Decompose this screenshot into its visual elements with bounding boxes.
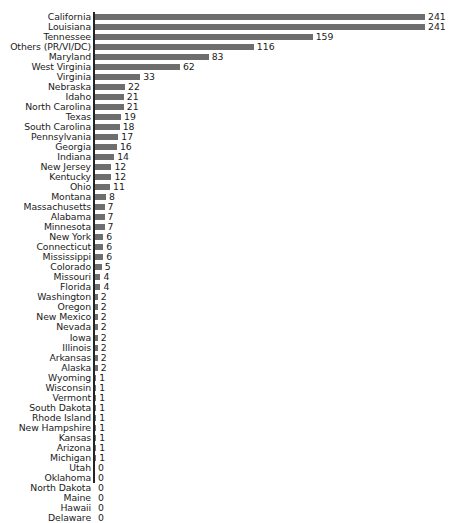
bar-and-value: 4	[95, 274, 109, 280]
bar	[95, 74, 140, 80]
bar	[95, 94, 124, 100]
bar	[95, 84, 125, 90]
bar	[95, 204, 105, 210]
bar-and-value: 6	[95, 254, 112, 260]
bar	[95, 405, 96, 411]
bar	[95, 174, 111, 180]
bar-and-value: 11	[95, 184, 125, 190]
bar-row: Delaware0	[0, 513, 453, 523]
bar	[95, 274, 100, 280]
bar-and-value: 2	[95, 335, 107, 341]
bar	[95, 254, 103, 260]
bar	[95, 345, 98, 351]
bar-value-label: 2	[101, 333, 107, 343]
bar-and-value: 21	[95, 104, 139, 110]
bar	[95, 314, 98, 320]
bar-and-value: 2	[95, 294, 107, 300]
bar	[95, 395, 96, 401]
bar	[95, 375, 96, 381]
bar-and-value: 83	[95, 54, 223, 60]
bar-value-label: 159	[316, 32, 334, 42]
bar	[95, 304, 98, 310]
bar	[95, 455, 96, 461]
bar-and-value: 8	[95, 194, 115, 200]
bar-and-value: 1	[95, 435, 105, 441]
bar-value-label: 62	[183, 62, 195, 72]
bar-and-value: 33	[95, 74, 155, 80]
bar-row: Nevada2	[0, 322, 453, 332]
bar-and-value: 4	[95, 284, 109, 290]
bar-and-value: 2	[95, 314, 107, 320]
bar-and-value: 1	[95, 415, 105, 421]
bar-and-value: 0	[95, 475, 104, 481]
bar	[95, 445, 96, 451]
bar-and-value: 14	[95, 154, 129, 160]
bar	[95, 14, 425, 20]
bar-and-value: 1	[95, 395, 105, 401]
bar	[95, 134, 118, 140]
bar	[95, 355, 98, 361]
bar	[95, 214, 105, 220]
bar	[95, 124, 120, 130]
bar	[95, 64, 180, 70]
bar	[95, 234, 103, 240]
bar	[95, 385, 96, 391]
bar-and-value: 1	[95, 405, 105, 411]
bar-and-value: 7	[95, 224, 114, 230]
bar-and-value: 1	[95, 425, 105, 431]
bar-and-value: 22	[95, 84, 140, 90]
bar-and-value: 2	[95, 355, 107, 361]
bar	[95, 184, 110, 190]
bar-and-value: 7	[95, 204, 114, 210]
bar-and-value: 116	[95, 44, 275, 50]
bar	[95, 264, 102, 270]
bar-and-value: 159	[95, 34, 333, 40]
bar	[95, 24, 425, 30]
bar-and-value: 2	[95, 324, 107, 330]
bar-and-value: 2	[95, 304, 107, 310]
bar-and-value: 16	[95, 144, 132, 150]
bar	[95, 324, 98, 330]
category-label: Nevada	[0, 322, 91, 332]
bar	[95, 144, 117, 150]
bar	[95, 154, 114, 160]
bar-row: Michigan1	[0, 453, 453, 463]
bar-and-value: 7	[95, 214, 114, 220]
bar	[95, 425, 96, 431]
bar-and-value: 62	[95, 64, 195, 70]
bar	[95, 34, 313, 40]
bar-and-value: 21	[95, 94, 139, 100]
bar	[95, 365, 98, 371]
bar	[95, 294, 98, 300]
bar-and-value: 1	[95, 455, 105, 461]
bar	[95, 335, 98, 341]
bar-and-value: 0	[95, 495, 104, 501]
bar	[95, 194, 106, 200]
bar-and-value: 12	[95, 164, 126, 170]
bar-and-value: 0	[95, 485, 104, 491]
bar-value-label: 83	[212, 52, 224, 62]
category-label: Iowa	[0, 333, 91, 343]
bar-and-value: 0	[95, 515, 104, 521]
bar-value-label: 33	[143, 72, 155, 82]
bar-and-value: 18	[95, 124, 134, 130]
bar	[95, 44, 254, 50]
category-label: Delaware	[0, 513, 91, 523]
bar	[95, 114, 121, 120]
bar	[95, 244, 103, 250]
bar-and-value: 6	[95, 234, 112, 240]
bar-and-value: 0	[95, 505, 104, 511]
chart-plot-area: California241Louisiana241Tennessee159Oth…	[0, 12, 453, 523]
bar	[95, 104, 124, 110]
bar-and-value: 241	[95, 14, 446, 20]
bar-value-label: 241	[428, 22, 446, 32]
bar-and-value: 1	[95, 445, 105, 451]
bar-and-value: 6	[95, 244, 112, 250]
bar-row: Iowa2	[0, 333, 453, 343]
bar-and-value: 2	[95, 365, 107, 371]
bar-and-value: 2	[95, 345, 107, 351]
bar-and-value: 17	[95, 134, 133, 140]
bar-and-value: 12	[95, 174, 126, 180]
bar-and-value: 5	[95, 264, 111, 270]
